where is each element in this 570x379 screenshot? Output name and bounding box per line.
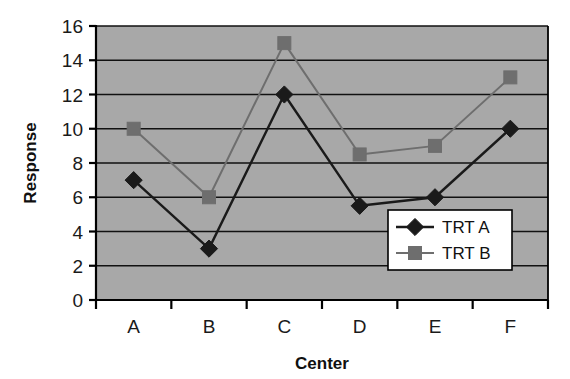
data-point-trt-b-D	[353, 148, 366, 161]
data-point-trt-b-E	[429, 139, 442, 152]
x-tick-label-F: F	[505, 316, 517, 337]
y-tick-label-2: 2	[72, 256, 83, 277]
x-tick-label-B: B	[203, 316, 216, 337]
y-tick-label-16: 16	[62, 16, 83, 37]
legend-marker-square-icon	[409, 247, 422, 260]
data-point-trt-b-B	[203, 191, 216, 204]
x-tick-label-E: E	[429, 316, 442, 337]
chart-canvas: 0246810121416ABCDEFCenterResponseTRT ATR…	[0, 0, 570, 379]
y-tick-label-6: 6	[72, 187, 83, 208]
y-tick-label-12: 12	[62, 85, 83, 106]
data-point-trt-b-F	[504, 71, 517, 84]
y-tick-label-4: 4	[72, 222, 83, 243]
legend-label-trt-a: TRT A	[442, 218, 490, 237]
y-tick-label-8: 8	[72, 153, 83, 174]
x-tick-label-D: D	[353, 316, 367, 337]
data-point-trt-b-A	[127, 122, 140, 135]
x-tick-label-A: A	[127, 316, 140, 337]
y-axis-title: Response	[21, 122, 40, 203]
x-tick-label-C: C	[277, 316, 291, 337]
y-tick-label-14: 14	[62, 50, 84, 71]
legend-label-trt-b: TRT B	[442, 244, 491, 263]
line-chart: 0246810121416ABCDEFCenterResponseTRT ATR…	[0, 0, 570, 379]
data-point-trt-b-C	[278, 37, 291, 50]
x-axis-title: Center	[295, 354, 349, 373]
y-tick-label-0: 0	[72, 290, 83, 311]
y-tick-label-10: 10	[62, 119, 83, 140]
